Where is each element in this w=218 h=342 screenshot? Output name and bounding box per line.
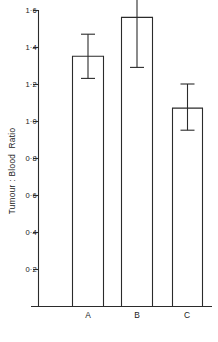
plot-area [0, 0, 218, 342]
bar-group-b [122, 0, 153, 306]
x-axis-label-b: B [134, 310, 140, 320]
bar-group-c [173, 84, 203, 306]
bar-group-a [73, 34, 104, 306]
bar-c [173, 108, 203, 306]
bar-a [73, 56, 104, 306]
bar-chart: Tumour : Blood Ratio 0·2 0·4 0·6 0·8 1·0… [0, 0, 218, 342]
x-axis-label-c: C [184, 310, 190, 320]
x-axis-label-a: A [85, 310, 91, 320]
y-axis-ticks [33, 11, 39, 270]
